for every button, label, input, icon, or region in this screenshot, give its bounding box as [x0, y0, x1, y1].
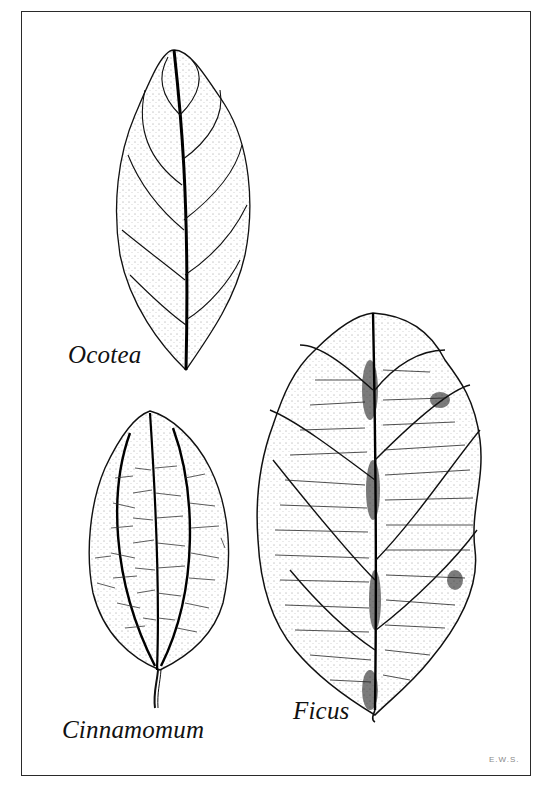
- ficus-label: Ficus: [293, 697, 350, 725]
- ocotea-label: Ocotea: [68, 341, 141, 369]
- ocotea-leaf-illustration: [110, 45, 260, 380]
- illustrator-signature: E.W.S.: [489, 755, 519, 764]
- cinnamomum-leaf-illustration: [85, 408, 235, 708]
- cinnamomum-label: Cinnamomum: [62, 716, 204, 744]
- ficus-leaf-illustration: [255, 310, 487, 722]
